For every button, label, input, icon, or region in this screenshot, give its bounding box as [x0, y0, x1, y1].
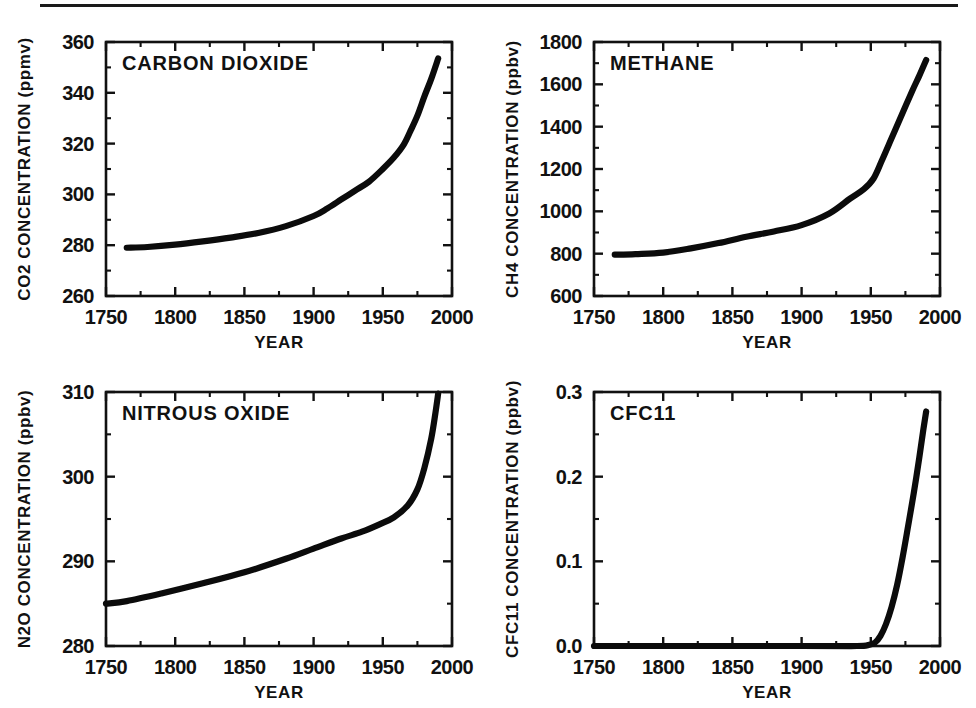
x-tick-label: 1950 — [850, 656, 893, 678]
y-axis-title: CFC11 CONCENTRATION (ppbv) — [503, 380, 522, 658]
x-tick-label: 1950 — [362, 306, 405, 328]
x-tick-label: 2000 — [431, 656, 474, 678]
y-tick-label: 300 — [62, 466, 94, 488]
y-tick-label: 300 — [62, 183, 94, 205]
panel-title: CARBON DIOXIDE — [122, 52, 309, 74]
x-tick-label: 2000 — [919, 656, 962, 678]
x-tick-label: 1850 — [223, 306, 266, 328]
x-tick-label: 1800 — [154, 656, 197, 678]
x-tick-label: 2000 — [431, 306, 474, 328]
y-tick-label: 320 — [62, 133, 94, 155]
x-axis-title: YEAR — [254, 333, 304, 348]
x-tick-label: 1900 — [780, 306, 823, 328]
x-axis-title: YEAR — [254, 683, 304, 698]
x-tick-label: 1900 — [292, 656, 335, 678]
y-tick-label: 1600 — [540, 73, 583, 95]
y-axis-title: CH4 CONCENTRATION (ppbv) — [503, 40, 522, 298]
y-tick-label: 310 — [62, 381, 94, 403]
data-series-line — [615, 60, 926, 255]
panel-title: CFC11 — [610, 402, 676, 424]
data-series-line — [106, 394, 438, 604]
chart-panel-methane: 6008001000120014001600180017501800185019… — [488, 18, 976, 348]
header-rule — [40, 4, 958, 7]
y-tick-label: 260 — [62, 285, 94, 307]
greenhouse-gas-figure: 2602803003203403601750180018501900195020… — [0, 0, 976, 708]
y-tick-label: 340 — [62, 82, 94, 104]
y-tick-label: 0.0 — [556, 635, 583, 657]
x-tick-label: 1850 — [711, 306, 754, 328]
x-tick-label: 1950 — [362, 656, 405, 678]
y-tick-label: 1200 — [540, 158, 583, 180]
y-tick-label: 800 — [550, 243, 582, 265]
y-tick-label: 280 — [62, 234, 94, 256]
chart-panel-cfc11: 0.00.10.20.3175018001850190019502000CFC1… — [488, 368, 976, 698]
x-tick-label: 1800 — [642, 306, 685, 328]
y-tick-label: 280 — [62, 635, 94, 657]
x-tick-label: 1750 — [573, 306, 616, 328]
x-axis-title: YEAR — [742, 333, 792, 348]
x-tick-label: 1800 — [642, 656, 685, 678]
y-tick-label: 0.2 — [556, 466, 583, 488]
chart-panel-carbon-dioxide: 2602803003203403601750180018501900195020… — [0, 18, 488, 348]
y-tick-label: 1800 — [540, 31, 583, 53]
x-tick-label: 1750 — [85, 656, 128, 678]
x-axis-title: YEAR — [742, 683, 792, 698]
plot-frame — [106, 392, 452, 646]
data-series-line — [594, 411, 926, 646]
panel-title: METHANE — [610, 52, 715, 74]
panel-title: NITROUS OXIDE — [122, 402, 290, 424]
y-tick-label: 0.3 — [556, 381, 583, 403]
data-series-line — [127, 59, 438, 248]
y-tick-label: 1000 — [540, 200, 583, 222]
plot-frame — [594, 42, 940, 296]
y-tick-label: 290 — [62, 550, 94, 572]
chart-panel-nitrous-oxide: 280290300310175018001850190019502000NITR… — [0, 368, 488, 698]
y-tick-label: 600 — [550, 285, 582, 307]
x-tick-label: 1750 — [573, 656, 616, 678]
y-tick-label: 0.1 — [556, 550, 583, 572]
x-tick-label: 2000 — [919, 306, 962, 328]
x-tick-label: 1750 — [85, 306, 128, 328]
y-axis-title: CO2 CONCENTRATION (ppmv) — [15, 37, 34, 300]
x-tick-label: 1850 — [711, 656, 754, 678]
x-tick-label: 1800 — [154, 306, 197, 328]
x-tick-label: 1900 — [292, 306, 335, 328]
y-tick-label: 360 — [62, 31, 94, 53]
plot-frame — [106, 42, 452, 296]
x-tick-label: 1900 — [780, 656, 823, 678]
x-tick-label: 1950 — [850, 306, 893, 328]
y-axis-title: N2O CONCENTRATION (ppbv) — [15, 390, 34, 649]
x-tick-label: 1850 — [223, 656, 266, 678]
y-tick-label: 1400 — [540, 116, 583, 138]
